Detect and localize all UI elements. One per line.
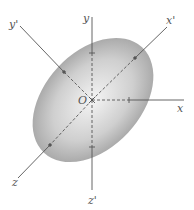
label-y-prime: y'	[8, 18, 18, 31]
label-z-prime: z'	[87, 194, 97, 207]
label-x: x	[177, 102, 184, 115]
label-x-prime: x'	[166, 14, 175, 27]
label-z: z	[11, 176, 18, 189]
origin-label: O	[78, 94, 87, 107]
label-y: y	[82, 12, 90, 25]
ellipsoid-axes-diagram: O y x z' x' y' z	[0, 0, 194, 210]
